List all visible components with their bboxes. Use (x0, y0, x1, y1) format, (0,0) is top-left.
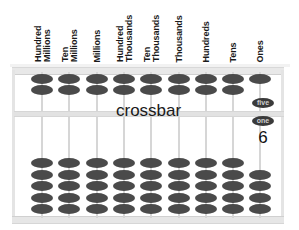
lower-bead[interactable] (31, 181, 53, 191)
lower-bead[interactable] (195, 204, 217, 214)
column-label-text: Hundred Thousands (115, 15, 132, 62)
lower-bead[interactable] (249, 193, 271, 203)
lower-bead[interactable] (58, 181, 80, 191)
lower-bead[interactable] (195, 193, 217, 203)
lower-bead[interactable] (195, 181, 217, 191)
lower-bead[interactable] (222, 181, 244, 191)
lower-bead[interactable] (140, 181, 162, 191)
five-bead-label: five (252, 98, 274, 108)
lower-bead[interactable] (168, 193, 190, 203)
lower-bead[interactable] (58, 170, 80, 180)
upper-bead[interactable] (168, 85, 190, 95)
upper-bead[interactable] (195, 74, 217, 84)
lower-bead[interactable] (113, 170, 135, 180)
lower-bead[interactable] (222, 170, 244, 180)
column-label: Ten Millions (59, 0, 79, 62)
upper-bead[interactable] (58, 74, 80, 84)
lower-bead[interactable] (168, 204, 190, 214)
upper-bead[interactable] (113, 85, 135, 95)
column-label-text: Ones (256, 40, 265, 62)
lower-bead[interactable] (249, 170, 271, 180)
upper-bead[interactable] (140, 74, 162, 84)
lower-bead[interactable] (86, 193, 108, 203)
lower-bead[interactable] (222, 158, 244, 168)
lower-bead[interactable] (31, 170, 53, 180)
upper-bead[interactable] (195, 85, 217, 95)
column-label-text: Hundreds (202, 21, 211, 62)
column-label: Hundred Thousands (114, 0, 134, 62)
frame-right (281, 70, 284, 220)
lower-bead[interactable] (168, 181, 190, 191)
lower-bead[interactable] (113, 181, 135, 191)
column-label: Tens (223, 0, 243, 62)
frame-left (12, 70, 15, 220)
upper-bead[interactable] (168, 74, 190, 84)
column-label-text: Thousands (174, 15, 183, 62)
displayed-value: 6 (252, 128, 274, 148)
upper-bead[interactable] (31, 85, 53, 95)
upper-bead[interactable] (58, 85, 80, 95)
lower-bead[interactable] (113, 158, 135, 168)
upper-bead[interactable] (113, 74, 135, 84)
lower-bead[interactable] (86, 181, 108, 191)
lower-bead[interactable] (113, 204, 135, 214)
lower-bead[interactable] (86, 158, 108, 168)
lower-bead[interactable] (58, 204, 80, 214)
lower-bead[interactable] (31, 193, 53, 203)
lower-bead[interactable] (86, 170, 108, 180)
lower-bead[interactable] (31, 204, 53, 214)
one-bead-label: one (252, 116, 274, 126)
lower-bead[interactable] (58, 193, 80, 203)
lower-bead[interactable] (249, 181, 271, 191)
column-label-text: Millions (92, 29, 101, 62)
lower-bead[interactable] (86, 204, 108, 214)
column-label: Ten Thousands (141, 0, 161, 62)
lower-bead[interactable] (249, 204, 271, 214)
column-label: Ones (250, 0, 270, 62)
lower-bead[interactable] (58, 158, 80, 168)
lower-bead[interactable] (222, 204, 244, 214)
lower-bead[interactable] (168, 170, 190, 180)
column-label: Hundred Millions (32, 0, 52, 62)
upper-bead[interactable] (140, 85, 162, 95)
crossbar-label: crossbar (116, 101, 181, 121)
lower-bead[interactable] (113, 193, 135, 203)
column-label: Millions (87, 0, 107, 62)
lower-bead[interactable] (195, 158, 217, 168)
column-label-text: Ten Thousands (143, 15, 160, 62)
frame-bottom (12, 216, 284, 224)
upper-bead[interactable] (86, 85, 108, 95)
lower-bead[interactable] (140, 204, 162, 214)
column-label: Hundreds (196, 0, 216, 62)
lower-bead[interactable] (168, 158, 190, 168)
column-label-text: Tens (229, 42, 238, 62)
lower-bead[interactable] (140, 158, 162, 168)
column-label-text: Hundred Millions (34, 26, 51, 62)
column-label: Thousands (169, 0, 189, 62)
upper-bead[interactable] (249, 74, 271, 84)
upper-bead[interactable] (222, 85, 244, 95)
column-label-text: Ten Millions (61, 29, 78, 62)
lower-bead[interactable] (222, 193, 244, 203)
lower-bead[interactable] (31, 158, 53, 168)
lower-bead[interactable] (140, 170, 162, 180)
upper-bead[interactable] (86, 74, 108, 84)
upper-bead[interactable] (222, 74, 244, 84)
upper-bead[interactable] (31, 74, 53, 84)
lower-bead[interactable] (195, 170, 217, 180)
lower-bead[interactable] (140, 193, 162, 203)
